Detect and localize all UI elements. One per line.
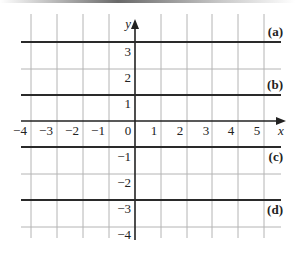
x-tick: −3 <box>39 123 53 138</box>
y-axis-arrow-icon <box>131 19 139 29</box>
y-axis-label: y <box>123 16 131 31</box>
x-tick-labels: −4 −3 −2 −1 0 1 2 3 4 5 x <box>13 123 284 138</box>
x-tick: 5 <box>254 123 261 138</box>
y-axis <box>131 19 139 240</box>
y-tick: −4 <box>117 227 131 242</box>
x-tick: −2 <box>65 123 79 138</box>
line-c-label: (c) <box>269 149 283 164</box>
x-tick: 3 <box>203 123 210 138</box>
x-tick: −4 <box>13 123 27 138</box>
x-tick: 1 <box>151 123 158 138</box>
x-tick: 2 <box>177 123 184 138</box>
y-tick: 2 <box>125 70 132 85</box>
y-tick: −3 <box>117 201 131 216</box>
y-tick: −1 <box>117 149 131 164</box>
x-tick: 0 <box>125 123 132 138</box>
x-axis-label: x <box>277 123 284 138</box>
y-tick: −2 <box>117 175 131 190</box>
line-b-label: (b) <box>267 77 283 92</box>
x-tick: −1 <box>91 123 105 138</box>
y-tick: 3 <box>125 44 132 59</box>
y-tick: 1 <box>125 96 132 111</box>
x-tick: 4 <box>228 123 235 138</box>
coordinate-grid: −4 −3 −2 −1 0 1 2 3 4 5 x y 3 2 1 −1 −2 … <box>0 0 295 255</box>
line-d-label: (d) <box>267 202 283 217</box>
line-a-label: (a) <box>268 24 283 39</box>
